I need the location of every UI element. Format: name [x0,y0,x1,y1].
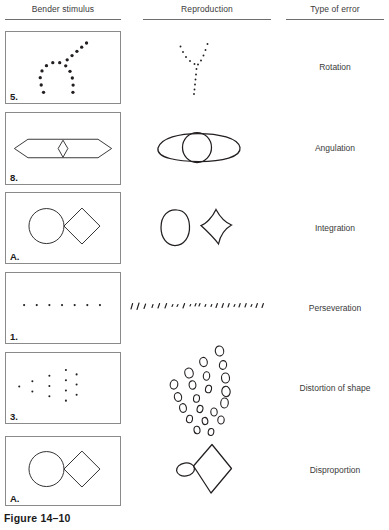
stimulus-box-row-1: 5. [5,31,121,104]
reproduction-cell-row-6 [135,436,280,506]
figure-page: { "figure": { "caption": "Figure 14\u201… [0,0,389,530]
column-rule-stimulus [5,19,121,20]
error-label-row-5: Distortion of shape [282,383,388,393]
column-header-error: Type of error [286,4,384,14]
reproduction-figure-row-3 [135,192,280,264]
column-header-stimulus: Bender stimulus [5,4,121,14]
stimulus-box-row-3: A. [5,192,121,264]
stimulus-box-row-6: A. [5,436,121,506]
reproduction-cell-row-2 [135,112,280,185]
stimulus-figure-row-1 [6,32,120,103]
column-rule-reproduction [143,19,271,20]
stimulus-label-row-6: A. [10,494,20,504]
stimulus-label-row-4: 1. [10,332,18,342]
error-label-row-3: Integration [282,223,388,233]
error-label-row-2: Angulation [282,143,388,153]
reproduction-cell-row-5 [135,338,280,448]
stimulus-label-row-1: 5. [10,92,18,102]
stimulus-figure-row-2 [6,113,120,184]
reproduction-figure-row-5 [135,338,280,448]
reproduction-cell-row-4 [125,272,285,344]
stimulus-label-row-5: 3. [10,412,18,422]
stimulus-figure-row-4 [6,273,120,343]
reproduction-figure-row-6 [135,436,280,506]
reproduction-figure-row-2 [135,112,280,185]
stimulus-figure-row-5 [6,353,120,423]
error-label-row-6: Disproportion [282,465,388,475]
stimulus-box-row-2: 8. [5,112,121,185]
column-header-reproduction: Reproduction [143,4,271,14]
reproduction-figure-row-1 [135,31,280,104]
stimulus-box-row-5: 3. [5,352,121,424]
error-label-row-1: Rotation [282,62,388,72]
figure-caption: Figure 14–10 [4,512,71,524]
stimulus-box-row-4: 1. [5,272,121,344]
reproduction-cell-row-1 [135,31,280,104]
stimulus-label-row-2: 8. [10,173,18,183]
reproduction-cell-row-3 [135,192,280,264]
error-label-row-4: Perseveration [282,303,388,313]
stimulus-figure-row-3 [6,193,120,263]
reproduction-figure-row-4 [125,272,285,344]
stimulus-figure-row-6 [6,437,120,505]
stimulus-label-row-3: A. [10,252,20,262]
column-rule-error [286,19,384,20]
